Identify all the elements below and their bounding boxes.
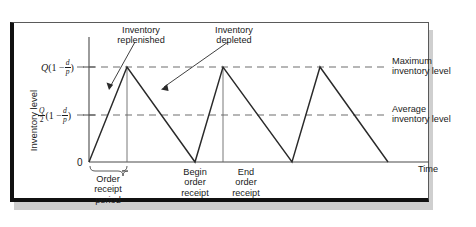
callout-inventory-replenished: Inventory replenished (110, 25, 172, 46)
y-axis-title: Inventory level (28, 78, 39, 164)
figure-panel: Inventory level Q(1 −dp) Q2(1 −dp) 0 Max… (10, 22, 429, 202)
annotation-begin-order-receipt-line2: order (168, 177, 222, 187)
y-tick-avg-den: p (63, 115, 67, 124)
y-tick-avg-coefficient-num: Q (39, 106, 44, 115)
annotation-begin-order-receipt: Begin order receipt (168, 167, 222, 198)
y-tick-label-average: Q2(1 −dp) (38, 107, 71, 123)
callout-inventory-replenished-line2: replenished (110, 35, 172, 45)
annotation-end-order-receipt: End order receipt (220, 167, 272, 198)
annotation-end-order-receipt-line2: order (220, 177, 272, 187)
x-axis-title: Time (418, 164, 438, 174)
callout-inventory-depleted-line2: depleted (203, 35, 265, 45)
y-tick-avg-open: (1 − (45, 110, 61, 121)
depleted-arrowhead (161, 84, 169, 91)
annotation-end-order-receipt-line3: receipt (220, 188, 272, 198)
annotation-order-receipt-period: Order receipt period (78, 174, 138, 205)
callout-inventory-depleted-line1: Inventory (203, 25, 265, 35)
annotation-order-receipt-period-line3: period (78, 195, 138, 205)
y-tick-max-num: d (66, 58, 70, 67)
order-receipt-period-brace-right (122, 166, 127, 171)
average-inventory-level-label: Average inventory level (392, 104, 451, 125)
annotation-order-receipt-period-line2: receipt (78, 184, 138, 194)
annotation-begin-order-receipt-line3: receipt (168, 188, 222, 198)
maximum-inventory-level-label: Maximum inventory level (392, 56, 451, 77)
figure-root: Inventory level Q(1 −dp) Q2(1 −dp) 0 Max… (0, 0, 476, 227)
y-tick-avg-close: ) (68, 110, 71, 121)
y-tick-avg-coefficient-den: 2 (40, 115, 44, 124)
callout-inventory-depleted: Inventory depleted (203, 25, 265, 46)
maximum-inventory-level-label-line2: inventory level (392, 66, 451, 76)
replenished-leader-line (110, 42, 135, 87)
annotation-end-order-receipt-line1: End (220, 167, 272, 177)
maximum-inventory-level-label-line1: Maximum (392, 56, 451, 66)
origin-label: 0 (77, 157, 83, 168)
y-tick-avg-num: d (63, 106, 67, 115)
y-tick-label-maximum: Q(1 −dp) (41, 59, 74, 75)
y-tick-max-open: (1 − (48, 62, 64, 73)
callout-inventory-replenished-line1: Inventory (110, 25, 172, 35)
y-tick-max-close: ) (71, 62, 74, 73)
annotation-begin-order-receipt-line1: Begin (168, 167, 222, 177)
annotation-order-receipt-period-line1: Order (78, 174, 138, 184)
average-inventory-level-label-line2: inventory level (392, 114, 451, 124)
y-tick-max-den: p (66, 67, 70, 76)
average-inventory-level-label-line1: Average (392, 104, 451, 114)
